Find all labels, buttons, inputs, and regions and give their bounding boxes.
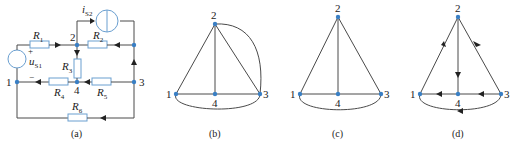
graph-c: 2 1 4 3 (c): [290, 2, 390, 140]
node-3: [132, 80, 136, 84]
node-label-3: 3: [384, 88, 390, 100]
label-minus: −: [29, 72, 34, 82]
node-2: [336, 15, 340, 19]
wire-r6-right: [87, 82, 134, 118]
caption-d: (d): [452, 128, 464, 140]
arrow-icon: [436, 91, 442, 97]
node-label-4: 4: [335, 97, 341, 109]
caption-b: (b): [209, 128, 221, 140]
node-4: [213, 92, 217, 96]
caption-a: (a): [71, 128, 82, 140]
node-top-right: [132, 43, 136, 47]
node-label-1: 1: [290, 88, 296, 100]
node-label-4: 4: [74, 84, 80, 96]
node-3: [258, 92, 262, 96]
node-label-3: 3: [504, 88, 510, 100]
resistor-r2: [88, 41, 107, 48]
edge-2-3: [338, 17, 381, 94]
arrow-icon: [100, 115, 106, 121]
arrow-icon: [90, 18, 95, 24]
graph-d: 2 1 4 3 (d): [410, 2, 510, 140]
node-1: [298, 92, 302, 96]
graph-b: 2 1 4 3 (b): [166, 9, 269, 140]
node-4: [456, 92, 460, 96]
arrow-icon: [55, 42, 61, 48]
node-2: [456, 15, 460, 19]
node-label-3: 3: [139, 76, 145, 88]
edge-1-2: [420, 17, 458, 94]
label-is2: iS2: [82, 3, 93, 18]
node-label-4: 4: [212, 97, 218, 109]
node-1: [418, 92, 422, 96]
node-label-2: 2: [70, 31, 76, 43]
arrow-icon: [35, 79, 41, 85]
node-1: [174, 92, 178, 96]
arrow-icon: [84, 79, 90, 85]
label-us1: uS1: [29, 55, 42, 70]
arrow-icon: [74, 50, 80, 56]
label-r3: R3: [61, 60, 73, 75]
node-3: [379, 92, 383, 96]
label-r6: R6: [71, 100, 83, 115]
circuit-figure: iS2 R1 + uS1 R2 R3 − R4: [0, 0, 513, 150]
node-4: [336, 92, 340, 96]
arrow-icon: [131, 59, 137, 65]
node-label-1: 1: [166, 88, 172, 100]
node-label-3: 3: [263, 88, 269, 100]
edge-2-1: [300, 17, 338, 94]
node-1: [15, 80, 19, 84]
resistor-r4: [49, 78, 68, 85]
arrow-icon: [478, 91, 484, 97]
circuit-a: iS2 R1 + uS1 R2 R3 − R4: [6, 3, 145, 140]
resistor-r5: [92, 78, 111, 85]
voltage-source-us1: [8, 50, 26, 68]
edge-1-3-arc: [176, 94, 260, 109]
node-label-1: 1: [6, 76, 12, 88]
wire-is2-right: [120, 21, 134, 45]
node-label-2: 2: [211, 9, 217, 21]
node-2: [213, 22, 217, 26]
node-3: [499, 92, 503, 96]
resistor-r3: [74, 59, 81, 78]
edge-2-1: [176, 24, 215, 94]
node-label-2: 2: [335, 2, 341, 14]
arrow-icon: [455, 72, 461, 78]
node-label-4: 4: [455, 97, 461, 109]
edge-3-2: [458, 17, 501, 94]
label-r5: R5: [96, 86, 108, 101]
label-r4: R4: [53, 86, 65, 101]
figure-canvas: iS2 R1 + uS1 R2 R3 − R4: [0, 0, 513, 150]
edge-2-3: [215, 24, 260, 94]
resistor-r6: [68, 114, 87, 121]
node-label-2: 2: [455, 2, 461, 14]
node-2: [75, 43, 79, 47]
caption-c: (c): [332, 128, 343, 140]
arrow-icon: [114, 42, 120, 48]
node-label-1: 1: [410, 88, 416, 100]
